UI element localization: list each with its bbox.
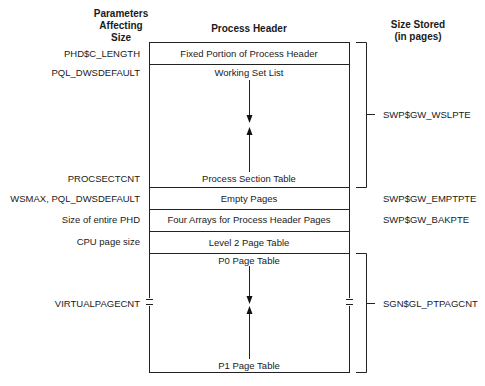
stored-swp-gw-emptpte: SWP$GW_EMPTPTE: [383, 193, 476, 204]
region-level2-page-table: Level 2 Page Table: [149, 237, 349, 248]
arrow-up-icon: [247, 127, 253, 135]
param-pql-dwsdefault: PQL_DWSDEFAULT: [51, 67, 140, 78]
param-phd-c-length: PHD$C_LENGTH: [64, 48, 140, 59]
region-fixed-portion: Fixed Portion of Process Header: [149, 48, 349, 59]
arrow-up-icon: [247, 306, 253, 314]
region-p0-page-table: P0 Page Table: [149, 255, 349, 266]
arrow-down-icon: [247, 115, 253, 123]
region-process-section-table: Process Section Table: [149, 173, 349, 184]
param-procsectcnt: PROCSECTCNT: [68, 173, 140, 184]
arrow-down-icon: [247, 296, 253, 304]
region-p1-page-table: P1 Page Table: [149, 360, 349, 371]
stored-swp-gw-wslpte: SWP$GW_WSLPTE: [383, 109, 471, 120]
param-wsmax: WSMAX, PQL_DWSDEFAULT: [10, 193, 140, 204]
region-four-arrays: Four Arrays for Process Header Pages: [149, 214, 349, 225]
stored-swp-gw-bakpte: SWP$GW_BAKPTE: [383, 214, 469, 225]
region-working-set-list: Working Set List: [149, 67, 349, 78]
stored-sgn-gl-ptpagcnt: SGN$GL_PTPAGCNT: [383, 298, 478, 309]
region-empty-pages: Empty Pages: [149, 193, 349, 204]
param-virtualpagecnt: VIRTUALPAGECNT: [55, 298, 140, 309]
param-cpu-page-size: CPU page size: [77, 236, 140, 247]
param-size-entire-phd: Size of entire PHD: [62, 214, 140, 225]
